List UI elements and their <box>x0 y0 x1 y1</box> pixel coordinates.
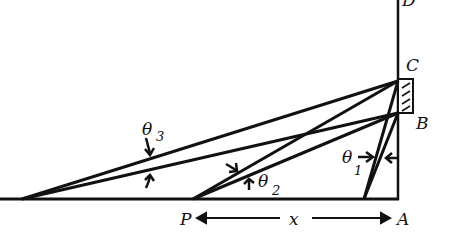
theta2-arrow-up-icon <box>244 179 254 190</box>
theta2-arrow-down-icon <box>226 163 237 172</box>
label-theta2-sub: 2 <box>271 183 280 198</box>
label-D: D <box>401 0 416 10</box>
label-theta1: θ <box>342 147 352 167</box>
label-A: A <box>395 209 409 229</box>
theta1-arrow-left-icon <box>386 153 398 163</box>
window-box <box>398 79 413 113</box>
label-theta3: θ <box>142 119 152 139</box>
label-theta1-sub: 1 <box>354 163 362 178</box>
label-x: x <box>289 209 299 229</box>
label-B: B <box>415 113 429 133</box>
label-C: C <box>406 55 419 75</box>
theta1-arrow-right-icon <box>358 152 373 162</box>
theta3-arrow-down-icon <box>145 138 154 155</box>
label-P: P <box>179 209 192 229</box>
label-theta2: θ <box>258 171 268 191</box>
line-P-to-C <box>193 81 398 199</box>
geometry-diagram: D C B A P x θ 3 θ 2 θ 1 <box>0 0 457 240</box>
line-far-to-C <box>22 81 398 199</box>
theta3-arrow-up-icon <box>145 175 154 188</box>
label-theta3-sub: 3 <box>156 129 164 144</box>
